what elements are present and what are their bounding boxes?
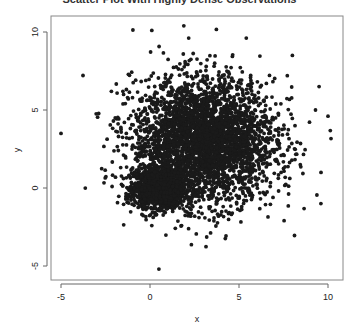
y-tick-label: 0 [30,185,40,190]
x-tick-label: 0 [147,292,152,302]
data-points [59,24,333,271]
y-tick-label: 5 [30,107,40,112]
x-tick-label: -5 [57,292,65,302]
y-axis-label: y [12,147,22,152]
x-axis: -50510 [57,284,333,302]
y-axis: -50510 [30,27,47,270]
scatter-plot: -50510 -50510 x y [0,0,359,333]
x-axis-label: x [195,314,200,324]
x-tick-label: 5 [236,292,241,302]
x-tick-label: 10 [323,292,333,302]
y-tick-label: 10 [30,27,40,37]
y-tick-label: -5 [30,262,40,270]
